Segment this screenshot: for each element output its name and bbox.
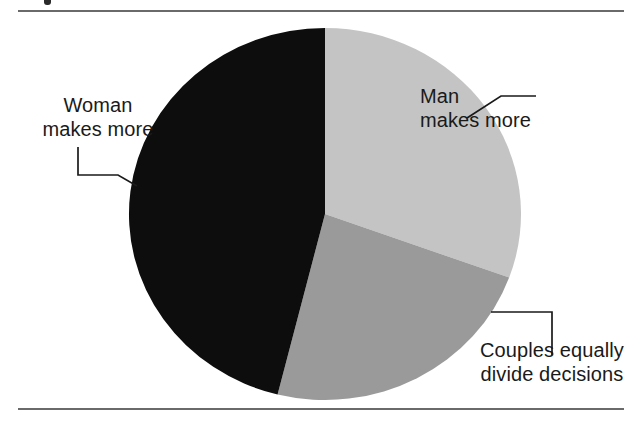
label-couples-line-1: Couples equally [472,338,632,362]
woman-leader-line [78,147,137,186]
label-man-makes-more: Man makes more [420,84,531,132]
label-couples-line-2: divide decisions [472,362,632,386]
label-man-line-2: makes more [420,108,531,132]
label-woman-line-2: makes more [22,117,174,141]
label-man-line-1: Man [420,84,531,108]
pie-chart-figure: Man makes more Woman makes more Couples … [0,0,642,426]
label-woman-line-1: Woman [22,93,174,117]
label-woman-makes-more: Woman makes more [22,93,174,141]
label-couples-equally-divide-decisions: Couples equally divide decisions [472,338,632,386]
